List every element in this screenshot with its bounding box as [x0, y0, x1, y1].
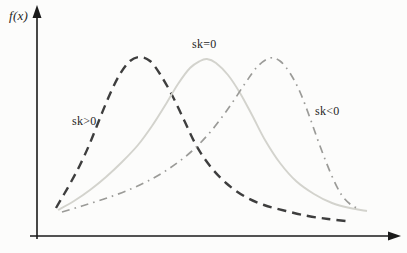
annotation-sk-positive: sk>0: [72, 115, 97, 128]
y-axis-label: f(x): [9, 9, 28, 22]
curve-sk-positive: [56, 57, 346, 221]
curve-sk-negative: [62, 58, 359, 212]
x-axis-arrowhead: [388, 232, 401, 241]
y-axis-arrowhead: [33, 5, 42, 18]
annotation-sk-negative: sk<0: [315, 105, 340, 118]
skewness-figure: f(x) sk=0 sk>0 sk<0: [0, 0, 407, 253]
annotation-sk-zero: sk=0: [192, 38, 217, 51]
curve-sk-zero: [58, 59, 367, 211]
